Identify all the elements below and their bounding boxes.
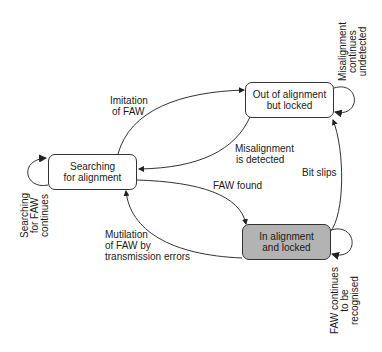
state-label-line: Out of alignment [253,89,326,100]
state-label-line: Searching [70,161,115,172]
state-searching-for-alignment: Searching for alignment [48,154,137,190]
state-label-line: and locked [262,242,310,253]
state-label-line: but locked [267,100,313,111]
arrow-misalignment-detected [139,117,250,169]
state-out-of-alignment: Out of alignment but locked [245,82,334,118]
label-misalignment-detected: Misalignment is detected [235,143,294,165]
label-mutilation: Mutilation of FAW by transmission errors [105,229,190,262]
label-bit-slips: Bit slips [302,167,336,178]
state-in-alignment: In alignment and locked [242,224,331,260]
state-label-line: for alignment [64,172,122,183]
label-imitation-of-faw: Imitation of FAW [110,95,148,117]
loop-searching [28,158,48,186]
label-searching-continues: Searching for FAW continues [20,193,50,238]
label-faw-found: FAW found [213,180,262,191]
label-faw-continues-recognised: FAW continues to be recognised [330,267,360,334]
loop-out-of-alignment [334,87,354,113]
label-misalignment-continues: Misalignment continues undetected [338,22,368,81]
loop-in-alignment [331,229,352,255]
state-label-line: In alignment [259,231,313,242]
